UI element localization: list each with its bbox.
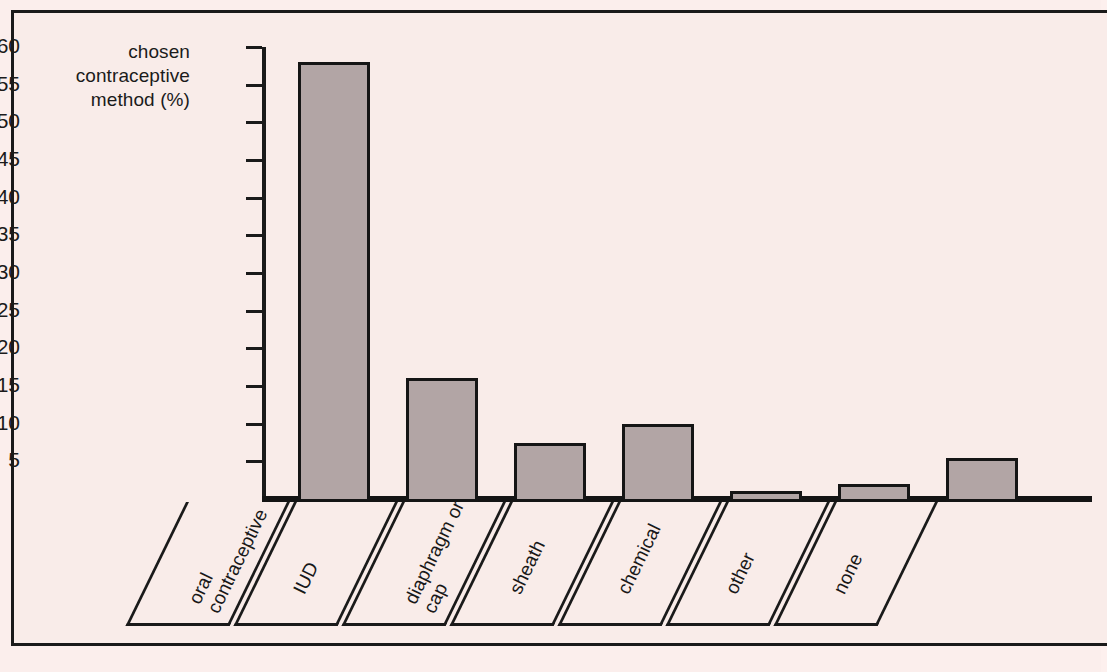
y-axis-tick-label: 35 [0, 222, 20, 246]
y-axis-tick-label: 55 [0, 72, 20, 96]
y-axis-tick-mark [246, 310, 262, 313]
bar [946, 458, 1018, 502]
y-axis-tick-label: 50 [0, 109, 20, 133]
y-axis-title-line-3: method (%) [40, 88, 190, 112]
y-axis-tick-mark [246, 234, 262, 237]
y-axis-line [262, 47, 266, 502]
y-axis-tick-mark [246, 159, 262, 162]
y-axis-tick-label: 40 [0, 185, 20, 209]
y-axis-tick-label: 15 [0, 373, 20, 397]
y-axis-tick-mark [246, 197, 262, 200]
y-axis-tick-label: 60 [0, 34, 20, 58]
y-axis-tick-label: 5 [0, 448, 20, 472]
y-axis-tick-label: 10 [0, 411, 20, 435]
y-axis-tick-label: 45 [0, 147, 20, 171]
y-axis-tick-mark [246, 347, 262, 350]
bar [298, 62, 370, 502]
y-axis-tick-mark [246, 272, 262, 275]
y-axis-tick-mark [246, 460, 262, 463]
y-axis-tick-label: 25 [0, 298, 20, 322]
y-axis-tick-mark [246, 121, 262, 124]
y-axis-tick-mark [246, 423, 262, 426]
y-axis-tick-label: 20 [0, 335, 20, 359]
y-axis-title-line-2: contraceptive [40, 64, 190, 88]
y-axis-tick-label: 30 [0, 260, 20, 284]
y-axis-title: chosen contraceptive method (%) [40, 40, 190, 112]
bar [406, 378, 478, 502]
y-axis-title-line-1: chosen [40, 40, 190, 64]
y-axis-tick-mark [246, 84, 262, 87]
y-axis-tick-mark [246, 385, 262, 388]
y-axis-tick-mark [246, 46, 262, 49]
